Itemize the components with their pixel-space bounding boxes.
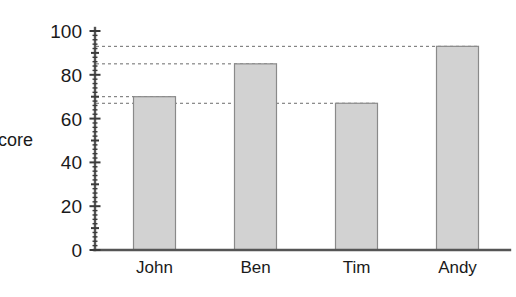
y-tick-label-20: 20	[61, 196, 82, 217]
y-tick-label-40: 40	[61, 152, 82, 173]
y-tick-label-60: 60	[61, 109, 82, 130]
bar-andy[interactable]	[437, 46, 479, 250]
y-tick-label-80: 80	[61, 65, 82, 86]
x-tick-label-john: John	[136, 258, 173, 277]
x-tick-label-ben: Ben	[240, 258, 270, 277]
x-tick-label-tim: Tim	[343, 258, 371, 277]
y-axis-title: core	[0, 130, 33, 150]
y-tick-label-100: 100	[50, 21, 82, 42]
x-tick-label-andy: Andy	[438, 258, 477, 277]
bar-john[interactable]	[134, 97, 176, 250]
bar-ben[interactable]	[235, 64, 277, 250]
bar-chart-figure: 020406080100 JohnBenTimAndy core	[0, 0, 516, 297]
bar-tim[interactable]	[336, 103, 378, 250]
chart-canvas: 020406080100 JohnBenTimAndy core	[0, 0, 516, 297]
y-tick-label-0: 0	[71, 240, 82, 261]
